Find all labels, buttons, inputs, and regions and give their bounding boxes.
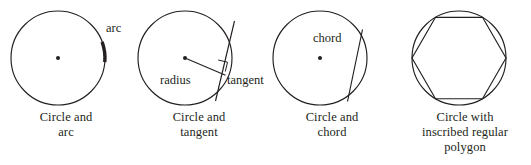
chord-line bbox=[348, 30, 363, 102]
panel-circle-and-arc: arc Circle and arc bbox=[0, 0, 132, 165]
label-tangent: tangent bbox=[227, 73, 264, 87]
center-point-dot bbox=[183, 56, 187, 60]
inscribed-hexagon bbox=[412, 17, 506, 98]
caption-line-2: arc bbox=[3, 125, 129, 140]
caption-line-1: Circle and bbox=[269, 110, 395, 125]
diagram-circle-with-inscribed-polygon bbox=[399, 0, 531, 112]
circle-outline bbox=[412, 11, 506, 105]
label-chord: chord bbox=[313, 31, 342, 45]
caption-line-1: Circle and bbox=[136, 110, 262, 125]
caption-line-1: Circle with bbox=[402, 110, 528, 125]
caption-circle-and-arc: Circle and arc bbox=[3, 110, 129, 140]
center-point-dot bbox=[56, 56, 60, 60]
arc-highlight bbox=[102, 42, 105, 62]
label-radius: radius bbox=[160, 73, 191, 87]
diagram-circle-and-arc: arc bbox=[0, 0, 132, 112]
caption-line-1: Circle and bbox=[3, 110, 129, 125]
caption-line-2: tangent bbox=[136, 125, 262, 140]
center-point-dot bbox=[318, 56, 322, 60]
panel-circle-and-tangent: radius tangent Circle and tangent bbox=[133, 0, 265, 165]
caption-circle-and-tangent: Circle and tangent bbox=[136, 110, 262, 140]
caption-line-2: inscribed regular bbox=[402, 125, 528, 140]
caption-line-3: polygon bbox=[402, 140, 528, 155]
caption-circle-and-chord: Circle and chord bbox=[269, 110, 395, 140]
label-arc: arc bbox=[106, 21, 122, 35]
panel-circle-and-chord: chord Circle and chord bbox=[266, 0, 398, 165]
caption-circle-with-inscribed-polygon: Circle with inscribed regular polygon bbox=[402, 110, 528, 155]
circle-terminology-figure: arc Circle and arc radius tangent Circle… bbox=[0, 0, 531, 165]
panel-circle-with-inscribed-polygon: Circle with inscribed regular polygon bbox=[399, 0, 531, 165]
diagram-circle-and-chord: chord bbox=[266, 0, 398, 112]
caption-line-2: chord bbox=[269, 125, 395, 140]
diagram-circle-and-tangent: radius tangent bbox=[133, 0, 265, 112]
